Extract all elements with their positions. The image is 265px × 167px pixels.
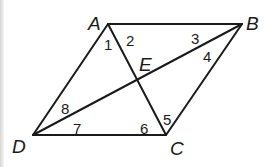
segment-da [33, 24, 108, 135]
vertex-label-b: B [246, 13, 259, 34]
vertex-label-d: D [12, 136, 26, 157]
vertex-label-c: C [170, 138, 184, 159]
angle-label-3: 3 [191, 30, 199, 47]
angle-label-8: 8 [61, 100, 69, 117]
angle-label-6: 6 [140, 120, 148, 137]
angle-label-4: 4 [203, 48, 211, 65]
diagonal-bd [33, 24, 242, 135]
segment-bc [166, 24, 242, 135]
angle-label-7: 7 [73, 120, 81, 137]
angle-label-5: 5 [163, 111, 171, 128]
angle-label-2: 2 [126, 32, 134, 49]
vertex-label-a: A [87, 13, 101, 34]
segments [33, 24, 242, 135]
angle-labels: 1 2 3 4 5 6 7 8 [61, 30, 211, 137]
parallelogram-diagram: A B C D E 1 2 3 4 5 6 7 8 [0, 0, 265, 167]
intersection-label-e: E [139, 54, 152, 75]
angle-label-1: 1 [104, 36, 112, 53]
